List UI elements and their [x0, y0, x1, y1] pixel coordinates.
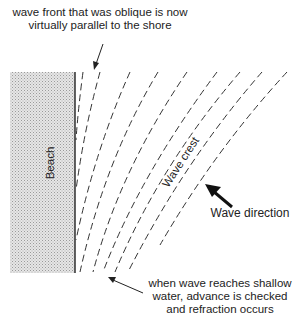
wave-crest-line — [76, 72, 130, 240]
beach-label: Beach — [44, 143, 56, 183]
bottom-annotation-line2: water, advance is checked — [140, 290, 300, 303]
top-annotation-line2: virtually parallel to the shore — [0, 19, 200, 32]
top-pointer-arrowhead — [93, 61, 99, 70]
wave-crest-line — [80, 72, 158, 272]
wave-crest-line — [76, 72, 100, 190]
top-pointer-line — [96, 44, 103, 64]
bottom-annotation-line3: and refraction occurs — [140, 303, 300, 316]
bottom-pointer-arrowhead — [108, 277, 116, 283]
wave-crest-line — [76, 72, 83, 140]
bottom-annotation: when wave reaches shallow water, advance… — [140, 277, 300, 316]
top-annotation: wave front that was oblique is now virtu… — [0, 6, 200, 32]
bottom-pointer-line — [113, 280, 143, 293]
wave-direction-arrow-shaft — [213, 191, 232, 207]
wave-direction-label: Wave direction — [195, 207, 300, 220]
wave-crests — [76, 72, 287, 272]
bottom-annotation-line1: when wave reaches shallow — [140, 277, 300, 290]
wave-crest-line — [103, 72, 217, 272]
beach-area — [10, 72, 75, 273]
top-annotation-line1: wave front that was oblique is now — [0, 6, 200, 19]
